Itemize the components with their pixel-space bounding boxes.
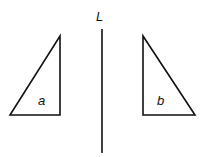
triangle-b: [143, 36, 195, 115]
triangle-b-label: b: [157, 94, 164, 107]
triangle-a: [10, 36, 60, 115]
line-label: L: [96, 10, 103, 23]
reflection-diagram: L a b: [0, 0, 203, 157]
triangle-a-label: a: [38, 94, 45, 107]
